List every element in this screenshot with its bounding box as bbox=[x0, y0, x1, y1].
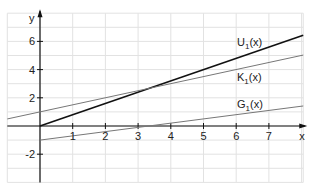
y-tick-label: 4 bbox=[29, 64, 35, 76]
y-tick-label: -2 bbox=[25, 148, 35, 160]
y-tick-label: 2 bbox=[29, 92, 35, 104]
x-tick-label: 7 bbox=[266, 130, 272, 142]
axes bbox=[7, 9, 307, 182]
x-tick-label: 1 bbox=[70, 130, 76, 142]
x-tick-label: 6 bbox=[233, 130, 239, 142]
curve-label-g: G1(x) bbox=[237, 98, 263, 113]
y-axis-label: y bbox=[29, 12, 35, 24]
x-axis-label: x bbox=[299, 130, 305, 142]
x-tick-label: 4 bbox=[168, 130, 174, 142]
x-tick-label: 3 bbox=[135, 130, 141, 142]
curve-label-u: U1(x) bbox=[237, 36, 262, 51]
chart-canvas: 1234567-2246 x y U1(x) K1(x) G1(x) bbox=[0, 0, 309, 190]
x-tick-label: 2 bbox=[102, 130, 108, 142]
x-tick-label: 5 bbox=[200, 130, 206, 142]
curves bbox=[7, 35, 303, 140]
y-tick-label: 6 bbox=[29, 35, 35, 47]
